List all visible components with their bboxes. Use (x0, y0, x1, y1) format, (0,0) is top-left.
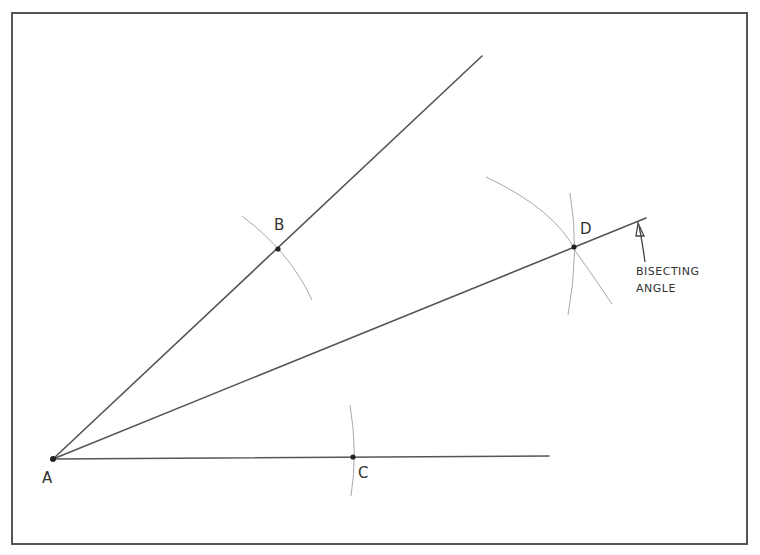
label-A: A (42, 469, 53, 487)
annotation-arrow-icon (636, 223, 645, 262)
point-C (350, 454, 355, 459)
arc-from-C-at-D (568, 193, 575, 315)
label-B: B (274, 216, 284, 234)
diagram-canvas: A B C D BISECTING ANGLE (0, 0, 760, 555)
label-C: C (358, 464, 368, 482)
point-B (275, 246, 280, 251)
ray-AB (53, 56, 482, 459)
annotation-line1: BISECTING (636, 265, 700, 278)
construction-drawing: A B C D BISECTING ANGLE (0, 0, 760, 555)
ray-AC (53, 456, 549, 459)
point-A (50, 456, 56, 462)
arc-at-C (350, 405, 354, 496)
arc-from-B-at-D (486, 177, 612, 304)
point-D (571, 244, 576, 249)
label-D: D (580, 220, 592, 238)
annotation-line2: ANGLE (636, 282, 676, 295)
ray-AD-bisector (53, 218, 646, 459)
